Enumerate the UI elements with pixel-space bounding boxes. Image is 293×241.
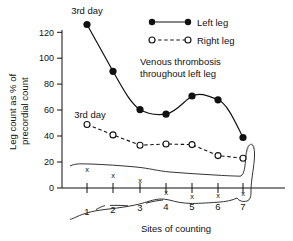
annotation-venous-line1: Venous thrombosis [140,56,221,67]
x-tick-label-5: 5 [189,201,194,212]
legend-marker-right-leg-start [149,37,155,43]
annotation-venous-line2: throughout left leg [140,68,216,79]
y-tick-label-100: 100 [39,53,54,63]
left-leg-point-6 [214,96,221,103]
left-leg-point-4 [162,111,169,118]
y-tick-label-0: 0 [49,183,54,193]
leg-outline-upper [70,164,240,176]
left-leg-point-7 [239,134,246,141]
x-tick-label-6: 6 [215,201,220,212]
line-chart: 120 100 80 60 40 20 0 Leg count as % of … [0,0,293,241]
right-leg-point-5 [189,142,195,148]
chart-figure: 120 100 80 60 40 20 0 Leg count as % of … [0,0,293,241]
x-tick-label-3: 3 [137,202,142,213]
x-axis-title: Sites of counting [141,223,211,234]
legend-marker-left-leg-end [185,19,191,25]
site-marker-5: x [190,192,194,201]
x-tick-label-1: 1 [84,206,89,217]
site-marker-2: x [111,171,115,180]
y-tick-label-20: 20 [44,157,54,167]
legend-item-left-leg[interactable]: Left leg [149,17,228,28]
x-tick-label-2: 2 [110,204,115,215]
left-leg-point-1 [83,21,90,28]
leg-outline-notch [96,206,105,210]
y-axis-title-line1: Leg count as % of [7,74,18,150]
left-leg-point-3 [136,106,143,113]
legend-label-left-leg: Left leg [197,17,228,28]
legend-marker-left-leg-start [149,19,155,25]
y-tick-label-80: 80 [44,79,54,89]
x-tick-label-7: 7 [240,201,245,212]
left-leg-point-2 [109,68,116,75]
annotation-third-day-left: 3rd day [71,5,103,16]
y-tick-label-40: 40 [44,131,54,141]
legend-marker-right-leg-end [185,37,191,43]
site-marker-1: x [85,165,89,174]
leg-outline-foot [237,144,255,201]
x-tick-label-4: 4 [163,201,168,212]
legend-item-right-leg[interactable]: Right leg [149,35,235,46]
left-leg-point-5 [188,92,195,99]
right-leg-point-1 [84,122,90,128]
site-marker-6: x [216,191,220,200]
right-leg-point-3 [137,142,143,148]
annotation-third-day-right: 3rd day [74,109,106,120]
right-leg-point-2 [110,132,116,138]
right-leg-point-4 [163,141,169,147]
right-leg-point-6 [215,153,221,159]
legend: Left leg Right leg [149,17,235,46]
site-marker-4: x [164,188,168,197]
legend-label-right-leg: Right leg [197,35,235,46]
y-tick-label-60: 60 [44,105,54,115]
right-leg-point-7 [240,155,246,161]
site-marker-3: x [138,176,142,185]
y-axis-title-line2: precordial count [19,77,30,145]
y-tick-label-120: 120 [39,28,54,38]
site-marker-7: x [241,189,245,198]
